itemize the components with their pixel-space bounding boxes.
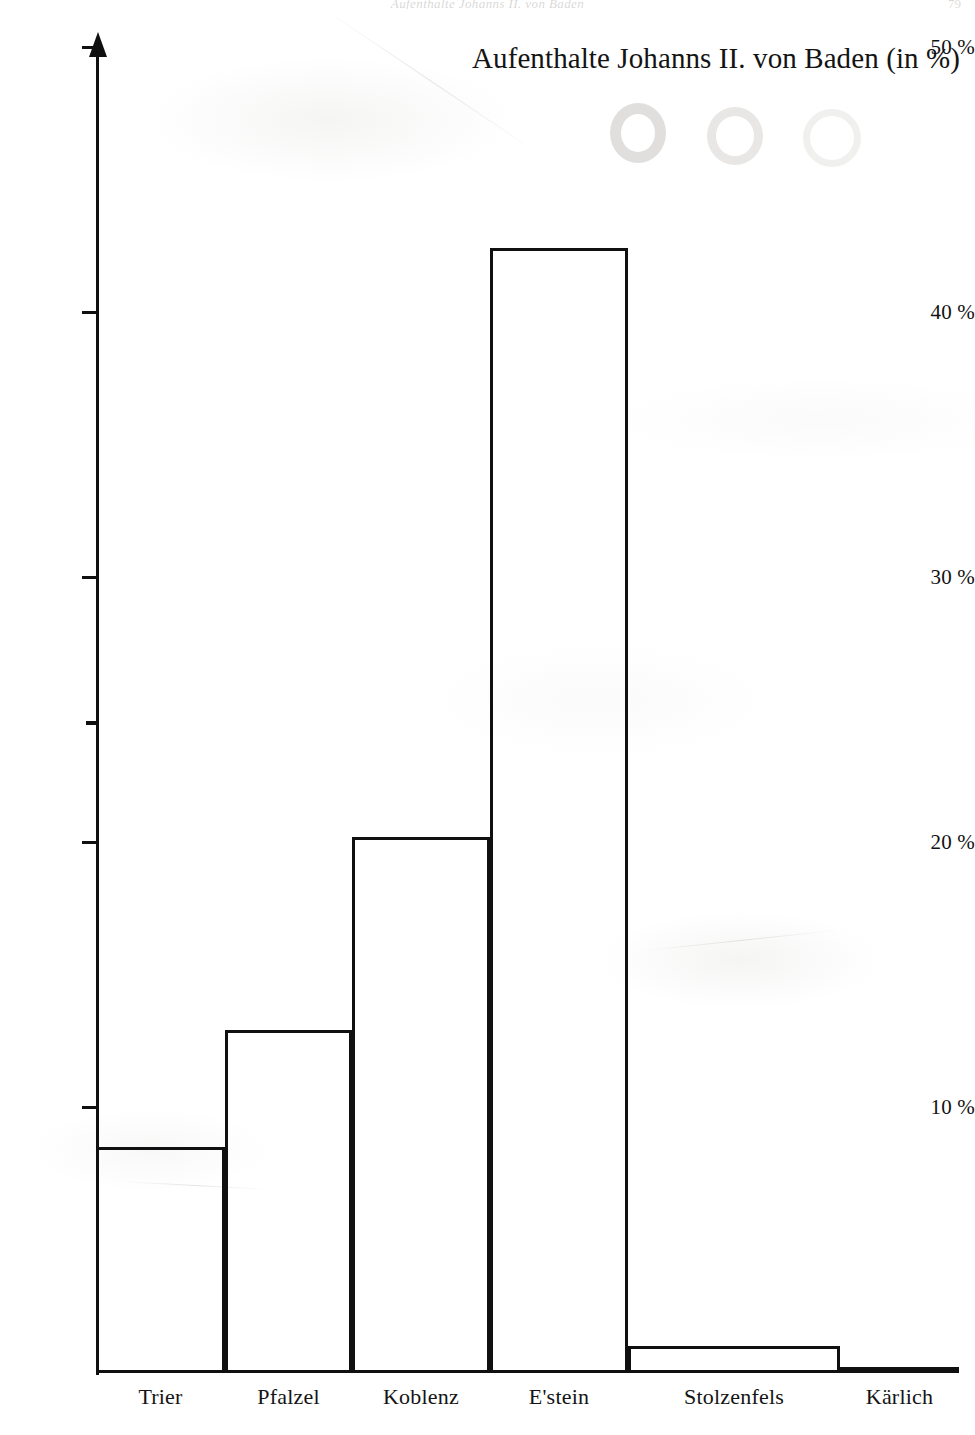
y-axis-tick xyxy=(82,576,97,579)
y-axis-tick-label: 20 % xyxy=(899,830,975,855)
y-axis-tick xyxy=(82,311,97,314)
bar-chart: 50 %40 %30 %20 %10 % TrierPfalzelKoblenz… xyxy=(0,0,975,1435)
bar-pfalzel[interactable] xyxy=(225,1030,352,1372)
bar-stolzenfels[interactable] xyxy=(628,1346,840,1373)
x-axis-label-koblenz: Koblenz xyxy=(383,1384,459,1410)
bar-trier[interactable] xyxy=(96,1147,225,1372)
bar-k-rlich[interactable] xyxy=(840,1367,959,1372)
y-axis-tick-label: 50 % xyxy=(899,35,975,60)
bar-koblenz[interactable] xyxy=(352,837,490,1372)
x-axis-label-k-rlich: Kärlich xyxy=(866,1384,933,1410)
y-axis-tick-label: 10 % xyxy=(899,1095,975,1120)
y-axis-tick xyxy=(82,46,97,49)
y-axis-tick xyxy=(82,841,97,844)
y-axis-tick-label: 30 % xyxy=(899,565,975,590)
x-axis-label-trier: Trier xyxy=(138,1384,182,1410)
y-axis-tick-label: 40 % xyxy=(899,300,975,325)
y-axis-minor-tick xyxy=(86,721,97,725)
bar-e-stein[interactable] xyxy=(490,248,628,1372)
x-axis-label-stolzenfels: Stolzenfels xyxy=(684,1384,784,1410)
x-axis-label-e-stein: E'stein xyxy=(529,1384,589,1410)
y-axis-tick xyxy=(82,1106,97,1109)
x-axis-label-pfalzel: Pfalzel xyxy=(257,1384,319,1410)
